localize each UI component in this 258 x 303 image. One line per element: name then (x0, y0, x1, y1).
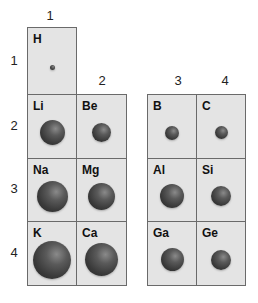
element-symbol: K (33, 226, 42, 240)
element-cell-be: Be (76, 94, 127, 159)
element-symbol: Ga (153, 226, 169, 240)
element-cell-ga: Ga (147, 221, 197, 286)
element-symbol: B (153, 99, 162, 113)
element-symbol: H (33, 32, 42, 46)
element-cell-si: Si (196, 158, 246, 222)
element-symbol: Be (82, 99, 97, 113)
period-label: 3 (4, 181, 24, 196)
atom-sphere-icon (165, 126, 179, 140)
atom-sphere-icon (37, 181, 68, 212)
atom-sphere-icon (211, 186, 231, 206)
atom-sphere-icon (85, 243, 118, 276)
element-cell-c: C (196, 94, 246, 159)
group-label: 4 (215, 73, 235, 88)
period-label: 1 (4, 53, 24, 68)
atom-sphere-icon (50, 65, 55, 70)
atom-sphere-icon (88, 183, 115, 210)
element-symbol: Ge (202, 226, 218, 240)
atom-sphere-icon (211, 250, 231, 270)
element-cell-li: Li (27, 94, 77, 159)
period-label: 4 (4, 245, 24, 260)
element-symbol: C (202, 99, 211, 113)
element-cell-h: H (27, 27, 77, 95)
period-label: 2 (4, 118, 24, 133)
element-cell-mg: Mg (76, 158, 127, 222)
atom-sphere-icon (161, 248, 184, 271)
element-symbol: Mg (82, 163, 99, 177)
element-cell-na: Na (27, 158, 77, 222)
group-label: 1 (40, 8, 60, 23)
group-label: 2 (92, 73, 112, 88)
atom-sphere-icon (92, 123, 111, 142)
element-cell-b: B (147, 94, 197, 159)
element-cell-ca: Ca (76, 221, 127, 286)
atom-sphere-icon (215, 126, 228, 139)
element-cell-al: Al (147, 158, 197, 222)
group-label: 3 (168, 73, 188, 88)
atom-sphere-icon (160, 184, 184, 208)
atom-sphere-icon (40, 120, 65, 145)
element-symbol: Ca (82, 226, 97, 240)
element-symbol: Si (202, 163, 213, 177)
element-symbol: Al (153, 163, 165, 177)
atom-sphere-icon (33, 241, 71, 279)
element-cell-ge: Ge (196, 221, 246, 286)
element-symbol: Na (33, 163, 48, 177)
element-cell-k: K (27, 221, 77, 286)
element-symbol: Li (33, 99, 44, 113)
